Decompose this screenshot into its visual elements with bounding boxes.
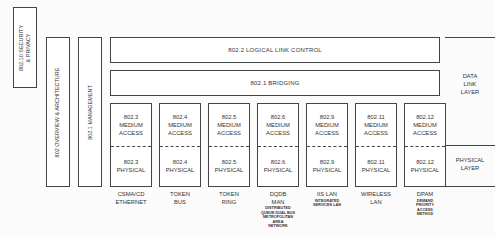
- network-subtitle: METHOD: [400, 212, 450, 217]
- network-name-1: DQDB: [253, 191, 303, 199]
- physical-cell: 802.5PHYSICAL: [209, 145, 249, 186]
- standard-column: 802.9MEDIUMACCESS802.9PHYSICAL: [306, 103, 348, 187]
- management-label: 802.1 MANAGEMENT: [87, 85, 94, 140]
- overview-architecture-box: 802 OVERVIEW & ARCHITECTURE: [46, 37, 70, 187]
- phy-label: PHYSICAL: [166, 166, 195, 174]
- phy-number: 802.4: [173, 158, 188, 166]
- physical-l2: LAYER: [445, 164, 495, 172]
- mac-label-1: MEDIUM: [168, 121, 192, 129]
- data-link-l2: LINK: [445, 80, 495, 88]
- network-name-1: CSMA/CD: [106, 191, 156, 199]
- mac-label-1: MEDIUM: [413, 121, 437, 129]
- llc-label: 802.2 LOGICAL LINK CONTROL: [228, 47, 322, 53]
- physical-layer-label: PHYSICAL LAYER: [445, 156, 495, 172]
- mac-label-1: MEDIUM: [217, 121, 241, 129]
- physical-bottom-line: [445, 186, 495, 187]
- phy-label: PHYSICAL: [362, 166, 391, 174]
- mac-label-1: MEDIUM: [315, 121, 339, 129]
- mac-number: 802.4: [173, 113, 188, 121]
- column-network-label: DQDBMANDISTRIBUTEDQUEUE DUAL BUSMETROPOL…: [253, 191, 303, 229]
- mac-label-2: ACCESS: [217, 129, 241, 137]
- standard-column: 802.5MEDIUMACCESS802.5PHYSICAL: [208, 103, 250, 187]
- physical-cell: 802.12PHYSICAL: [405, 145, 445, 186]
- medium-access-cell: 802.3MEDIUMACCESS: [111, 104, 151, 147]
- mac-label-2: ACCESS: [119, 129, 143, 137]
- phy-label: PHYSICAL: [411, 166, 440, 174]
- mac-label-1: MEDIUM: [364, 121, 388, 129]
- bridging-bar: 802.1 BRIDGING: [110, 70, 440, 96]
- mac-label-1: MEDIUM: [119, 121, 143, 129]
- phy-number: 802.6: [271, 158, 286, 166]
- network-name-1: TOKEN: [155, 191, 205, 199]
- phy-label: PHYSICAL: [215, 166, 244, 174]
- mac-number: 802.3: [124, 113, 139, 121]
- physical-cell: 802.6PHYSICAL: [258, 145, 298, 186]
- network-name-2: MAN: [253, 199, 303, 207]
- network-name-2: RING: [204, 199, 254, 207]
- standard-column: 802.6MEDIUMACCESS802.6PHYSICAL: [257, 103, 299, 187]
- mac-number: 802.12: [416, 113, 434, 121]
- mac-number: 802.6: [271, 113, 286, 121]
- medium-access-cell: 802.9MEDIUMACCESS: [307, 104, 347, 147]
- standard-column: 802.12MEDIUMACCESS802.12PHYSICAL: [404, 103, 446, 187]
- medium-access-cell: 802.11MEDIUMACCESS: [356, 104, 396, 147]
- phy-number: 802.3: [124, 158, 139, 166]
- mac-label-2: ACCESS: [266, 129, 290, 137]
- phy-label: PHYSICAL: [264, 166, 293, 174]
- phy-number: 802.12: [416, 158, 434, 166]
- column-network-label: CSMA/CDETHERNET: [106, 191, 156, 206]
- standard-column: 802.11MEDIUMACCESS802.11PHYSICAL: [355, 103, 397, 187]
- network-name-2: BUS: [155, 199, 205, 207]
- phy-number: 802.9: [320, 158, 335, 166]
- column-network-label: TOKENBUS: [155, 191, 205, 206]
- management-box: 802.1 MANAGEMENT: [78, 37, 102, 187]
- data-link-layer-label: DATA LINK LAYER: [445, 72, 495, 96]
- standard-column: 802.4MEDIUMACCESS802.4PHYSICAL: [159, 103, 201, 187]
- physical-l1: PHYSICAL: [445, 156, 495, 164]
- security-label-line2: & PRIVACY: [25, 33, 31, 62]
- physical-cell: 802.11PHYSICAL: [356, 145, 396, 186]
- phy-label: PHYSICAL: [117, 166, 146, 174]
- physical-cell: 802.9PHYSICAL: [307, 145, 347, 186]
- physical-cell: 802.4PHYSICAL: [160, 145, 200, 186]
- column-network-label: WIRELESSLAN: [351, 191, 401, 206]
- network-name-1: WIRELESS: [351, 191, 401, 199]
- standard-column: 802.3MEDIUMACCESS802.3PHYSICAL: [110, 103, 152, 187]
- mac-number: 802.9: [320, 113, 335, 121]
- data-link-l3: LAYER: [445, 88, 495, 96]
- bridging-label: 802.1 BRIDGING: [250, 80, 299, 86]
- security-privacy-box: 802.10 SECURITY & PRIVACY: [13, 7, 37, 88]
- data-link-l1: DATA: [445, 72, 495, 80]
- data-link-top-line: [445, 37, 495, 38]
- column-network-label: IIS LANINTEGRATEDSERVICES LAN: [302, 191, 352, 208]
- network-name-2: ETHERNET: [106, 199, 156, 207]
- llc-bar: 802.2 LOGICAL LINK CONTROL: [110, 37, 440, 63]
- network-subtitle: SERVICES LAN: [302, 203, 352, 208]
- column-network-label: TOKENRING: [204, 191, 254, 206]
- security-privacy-label: 802.10 SECURITY & PRIVACY: [18, 24, 32, 70]
- mac-label-2: ACCESS: [364, 129, 388, 137]
- phy-number: 802.5: [222, 158, 237, 166]
- mac-label-2: ACCESS: [315, 129, 339, 137]
- medium-access-cell: 802.12MEDIUMACCESS: [405, 104, 445, 147]
- medium-access-cell: 802.5MEDIUMACCESS: [209, 104, 249, 147]
- physical-cell: 802.3PHYSICAL: [111, 145, 151, 186]
- phy-label: PHYSICAL: [313, 166, 342, 174]
- network-name-1: IIS LAN: [302, 191, 352, 199]
- network-name-2: LAN: [351, 199, 401, 207]
- mac-label-2: ACCESS: [413, 129, 437, 137]
- medium-access-cell: 802.6MEDIUMACCESS: [258, 104, 298, 147]
- mac-label-1: MEDIUM: [266, 121, 290, 129]
- network-name-1: TOKEN: [204, 191, 254, 199]
- mac-label-2: ACCESS: [168, 129, 192, 137]
- security-label-line1: 802.10 SECURITY: [18, 24, 24, 70]
- medium-access-cell: 802.4MEDIUMACCESS: [160, 104, 200, 147]
- mac-number: 802.5: [222, 113, 237, 121]
- mac-number: 802.11: [367, 113, 384, 121]
- physical-top-line: [445, 145, 495, 146]
- column-network-label: DPAMDEMANDPRIORITYACCESSMETHOD: [400, 191, 450, 217]
- network-subtitle: NETWORK: [253, 224, 303, 229]
- overview-architecture-label: 802 OVERVIEW & ARCHITECTURE: [55, 67, 62, 157]
- phy-number: 802.11: [367, 158, 384, 166]
- network-name-1: DPAM: [400, 191, 450, 199]
